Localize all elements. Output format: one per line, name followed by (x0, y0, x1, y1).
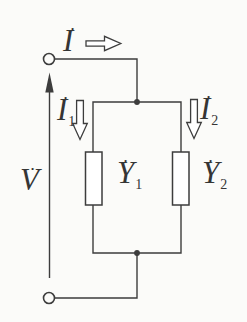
label-branch1-current: •I1 (57, 94, 75, 125)
current-arrow-icon (86, 36, 121, 50)
label-subscript: 1 (68, 115, 75, 129)
circuit-diagram: •I •I1 •I2 •V •Y1 •Y2 (0, 0, 247, 322)
phasor-dot-icon: • (31, 165, 34, 174)
phasor-dot-icon: • (209, 157, 212, 166)
label-voltage: •V (20, 164, 40, 195)
label-admittance-2: •Y2 (202, 157, 227, 188)
label-source-current: •I (63, 25, 74, 56)
label-subscript: 2 (220, 178, 227, 192)
wire-bottom (55, 253, 137, 298)
phasor-dot-icon: • (71, 25, 74, 34)
phasor-dot-icon: • (64, 94, 67, 103)
label-branch2-current: •I2 (200, 93, 218, 124)
terminal-bottom-icon (44, 293, 55, 304)
label-subscript: 2 (211, 114, 218, 128)
phasor-dot-icon: • (124, 157, 127, 166)
label-admittance-1: •Y1 (117, 157, 142, 188)
admittance-box-2 (173, 152, 190, 205)
voltage-arrowhead-icon (45, 73, 53, 93)
phasor-dot-icon: • (207, 93, 210, 102)
wire-parallel-bottom-rail (93, 205, 181, 253)
label-subscript: 1 (135, 178, 142, 192)
admittance-box-1 (86, 152, 103, 205)
terminal-top-icon (44, 54, 55, 65)
wire-parallel-top-rail (93, 102, 181, 152)
junction-dot-bottom (134, 250, 140, 256)
label-letter: V (20, 164, 39, 195)
junction-dot-top (134, 99, 140, 105)
